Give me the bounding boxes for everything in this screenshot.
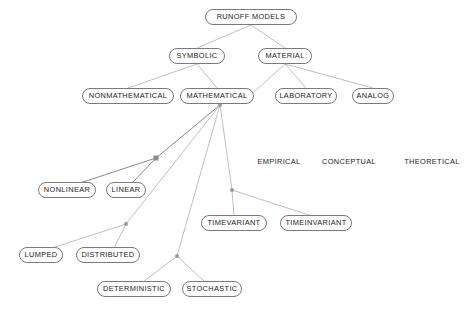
label-empirical: EMPIRICAL	[258, 158, 301, 165]
edge-layer	[0, 0, 474, 315]
edge-junction-timevariant-to-timeinvariant	[232, 190, 312, 216]
node-label-timevariant: TIMEVARIANT	[208, 219, 261, 226]
label-conceptual: CONCEPTUAL	[322, 158, 376, 165]
node-lumped[interactable]: LUMPED	[19, 247, 63, 263]
edge-mathematical-to-junction-timevariant	[220, 105, 232, 190]
node-label-linear: LINEAR	[112, 186, 141, 193]
edge-junction-distributed-to-lumped	[52, 224, 126, 248]
node-analog[interactable]: ANALOG	[352, 88, 394, 104]
node-material[interactable]: MATERIAL	[258, 48, 312, 64]
node-stochastic[interactable]: STOCHASTIC	[182, 281, 242, 297]
node-mathematical[interactable]: MATHEMATICAL	[180, 88, 254, 104]
junction-stochastic	[175, 254, 179, 258]
edge-junction-timevariant-to-timevariant	[232, 190, 234, 216]
node-label-lumped: LUMPED	[25, 251, 58, 258]
node-label-analog: ANALOG	[357, 92, 390, 99]
junction-linear	[154, 156, 159, 161]
node-nonlinear[interactable]: NONLINEAR	[38, 182, 96, 198]
node-label-deterministic: DETERMINISTIC	[103, 285, 165, 292]
edge-runoff-models-to-material	[251, 25, 285, 48]
junction-distributed	[124, 222, 128, 226]
node-label-timeinvariant: TIMEINVARIANT	[285, 219, 346, 226]
edge-material-to-laboratory	[285, 64, 306, 88]
node-timeinvariant[interactable]: TIMEINVARIANT	[280, 215, 352, 231]
edge-mathematical-to-junction-stochastic	[177, 105, 220, 256]
node-nonmathematical[interactable]: NONMATHEMATICAL	[82, 88, 174, 104]
node-label-nonlinear: NONLINEAR	[44, 186, 90, 193]
node-label-symbolic: SYMBOLIC	[177, 52, 218, 59]
node-runoff-models[interactable]: RUNOFF MODELS	[205, 9, 297, 25]
node-label-distributed: DISTRIBUTED	[81, 251, 134, 258]
edge-junction-stochastic-to-deterministic	[143, 256, 177, 282]
label-theoretical: THEORETICAL	[404, 158, 460, 165]
node-deterministic[interactable]: DETERMINISTIC	[97, 281, 171, 297]
node-linear[interactable]: LINEAR	[106, 182, 146, 198]
junction-timevariant	[230, 188, 234, 192]
node-label-mathematical: MATHEMATICAL	[187, 92, 248, 99]
junction-nodes	[124, 103, 234, 258]
edge-runoff-models-to-symbolic	[197, 25, 251, 48]
edge-material-to-analog	[285, 64, 373, 88]
edge-junction-stochastic-to-stochastic	[177, 256, 205, 282]
node-distributed[interactable]: DISTRIBUTED	[76, 247, 140, 263]
node-label-nonmathematical: NONMATHEMATICAL	[89, 92, 167, 99]
node-label-material: MATERIAL	[265, 52, 304, 59]
edge-symbolic-to-nonmathematical	[128, 64, 197, 88]
node-label-laboratory: LABORATORY	[279, 92, 332, 99]
edge-mathematical-to-junction-distributed	[126, 105, 220, 224]
edge-mathematical-to-junction-linear	[156, 105, 220, 158]
runoff-models-diagram: RUNOFF MODELSSYMBOLICMATERIALNONMATHEMAT…	[0, 0, 474, 315]
node-label-runoff-models: RUNOFF MODELS	[217, 13, 286, 20]
edge-symbolic-to-mathematical	[197, 64, 217, 88]
node-laboratory[interactable]: LABORATORY	[275, 88, 337, 104]
node-timevariant[interactable]: TIMEVARIANT	[201, 215, 267, 231]
node-symbolic[interactable]: SYMBOLIC	[169, 48, 225, 64]
node-label-stochastic: STOCHASTIC	[187, 285, 238, 292]
